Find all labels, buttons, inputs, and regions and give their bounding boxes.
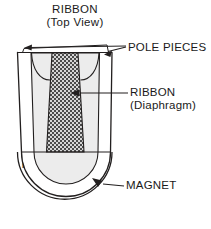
pole-leader-lower-stroke — [108, 47, 126, 52]
pole-leader-arrowhead-left — [24, 45, 32, 51]
ribbon-diaphragm — [47, 53, 85, 152]
ribbon-shape — [47, 53, 85, 152]
magnet-leader-line — [103, 184, 124, 186]
magnet-leader — [92, 178, 124, 187]
pole-leader-upper-stroke — [30, 46, 126, 48]
diagram-artwork — [0, 0, 211, 229]
ribbon-microphone-diagram: RIBBON (Top View) POLE PIECES RIBBON (Di… — [0, 0, 211, 229]
